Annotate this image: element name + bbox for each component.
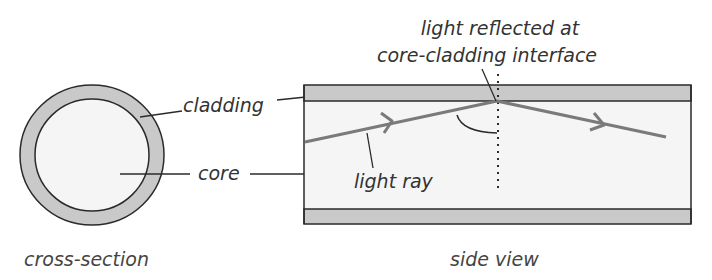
core-disc xyxy=(35,99,149,211)
side-cladding-bottom xyxy=(304,209,691,224)
fiber-diagram: cladding core cross-section light reflec… xyxy=(0,0,712,280)
reflection-label-line1: light reflected at xyxy=(421,17,581,39)
reflection-label-line2: core-cladding interface xyxy=(377,44,597,66)
cross-section-view: cladding core cross-section xyxy=(20,85,314,270)
core-label: core xyxy=(198,162,240,184)
side-cladding-top xyxy=(304,85,691,101)
side-view: light reflected at core-cladding interfa… xyxy=(304,17,691,270)
cross-section-caption: cross-section xyxy=(24,248,149,270)
cladding-leader-line-right xyxy=(277,97,306,100)
side-view-caption: side view xyxy=(450,248,539,270)
cladding-label: cladding xyxy=(183,94,264,116)
light-ray-label: light ray xyxy=(354,170,434,192)
